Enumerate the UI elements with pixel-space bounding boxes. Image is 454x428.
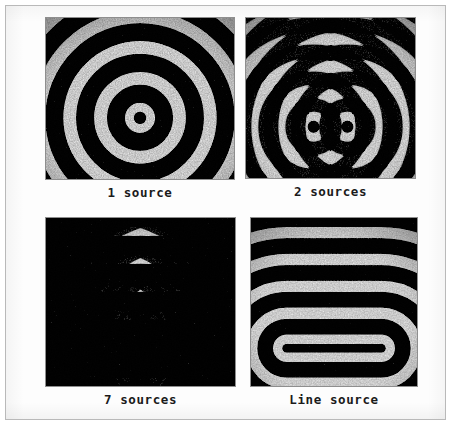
wave-pattern-image-line-source: [251, 218, 417, 386]
wave-pattern-svg-2-sources: [246, 18, 415, 178]
wave-pattern-svg-7-sources: [46, 218, 235, 386]
figure-frame: 1 source 2 sources 7 sources Line source: [5, 5, 446, 420]
wave-pattern-svg-1-source: [46, 18, 234, 179]
wave-pattern-image-2-sources: [246, 18, 415, 178]
wave-pattern-svg-line-source: [251, 218, 417, 386]
panel-caption-1-source: 1 source: [46, 185, 234, 200]
wave-pattern-image-7-sources: [46, 218, 235, 386]
panel-caption-7-sources: 7 sources: [46, 392, 235, 407]
figure-root: 1 source 2 sources 7 sources Line source: [0, 0, 454, 428]
wave-pattern-image-1-source: [46, 18, 234, 179]
panel-caption-line-source: Line source: [251, 392, 417, 407]
panel-caption-2-sources: 2 sources: [246, 184, 415, 199]
